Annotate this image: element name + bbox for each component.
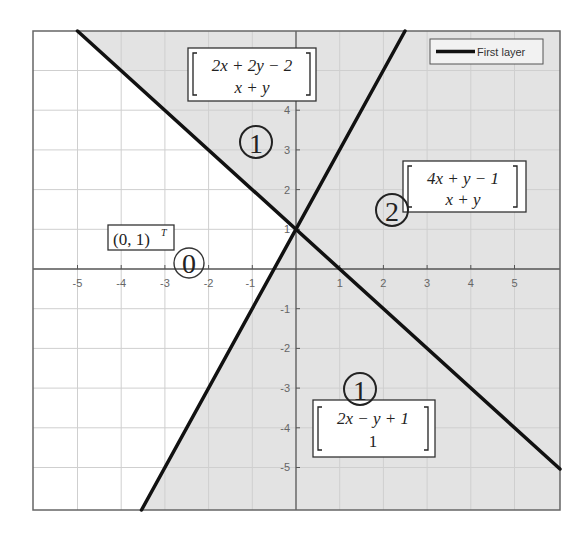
y-tick-label: 4 [284, 104, 290, 116]
box-region-2: 4x + y − 1 x + y [403, 161, 526, 212]
box-row1: 4x + y − 1 [427, 169, 499, 188]
x-tick-label: -4 [116, 277, 126, 289]
x-tick-label: -3 [160, 277, 170, 289]
y-tick-label: 3 [284, 144, 290, 156]
x-tick-label: 1 [337, 277, 343, 289]
y-tick-label: -3 [280, 382, 290, 394]
x-tick-label: 2 [380, 277, 386, 289]
x-tick-label: 4 [468, 277, 474, 289]
x-tick-label: 5 [511, 277, 517, 289]
x-tick-label: 3 [424, 277, 430, 289]
circle-label: 1 [353, 375, 367, 406]
box-region-1-top: 2x + 2y − 2 x + y [188, 48, 316, 101]
circle-label: 0 [182, 248, 196, 279]
box-row2: 1 [369, 432, 378, 451]
y-tick-label: -2 [280, 342, 290, 354]
circle-label: 1 [249, 128, 263, 159]
box-row2: x + y [233, 78, 270, 97]
x-tick-label: -2 [204, 277, 214, 289]
legend: First layer [430, 39, 543, 64]
y-tick-label: -5 [280, 461, 290, 473]
chart-canvas: -5 -4 -3 -2 -1 1 2 3 4 5 4 3 2 1 -1 -2 -… [0, 0, 583, 536]
x-tick-label: -1 [245, 277, 255, 289]
y-tick-label: -4 [280, 422, 290, 434]
y-tick-label: -1 [280, 303, 290, 315]
y-tick-label: 2 [284, 184, 290, 196]
box-row2: x + y [444, 190, 481, 209]
circle-label: 2 [385, 196, 399, 227]
legend-label: First layer [477, 46, 526, 58]
box-region-0: (0, 1) T [108, 225, 174, 250]
box-region-1-bottom: 2x − y + 1 1 [313, 400, 435, 457]
box-vector: (0, 1) [113, 230, 150, 249]
x-tick-label: -5 [73, 277, 83, 289]
box-row1: 2x − y + 1 [337, 409, 409, 428]
box-row1: 2x + 2y − 2 [212, 56, 293, 75]
